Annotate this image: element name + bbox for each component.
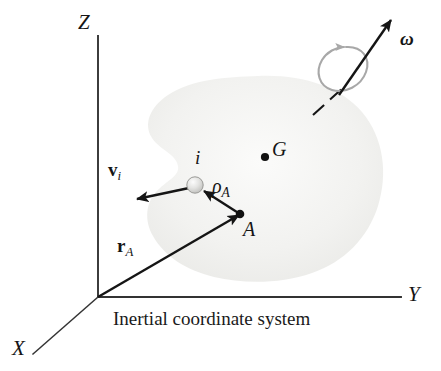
vector-label-v-i: vi bbox=[108, 160, 121, 183]
particle-label-i: i bbox=[195, 148, 200, 167]
point-g-marker bbox=[261, 153, 269, 161]
vector-label-rho-a: ρA bbox=[212, 176, 230, 199]
rigid-body-kinematics-figure: Z Y X G A i vi ρA rA ω Inertial coordina… bbox=[0, 0, 441, 371]
axis-x-line bbox=[33, 297, 98, 354]
vector-label-omega: ω bbox=[400, 29, 414, 48]
vector-symbol-v: v bbox=[108, 159, 118, 180]
particle-i-sphere bbox=[187, 177, 203, 193]
point-label-a: A bbox=[243, 219, 255, 239]
vector-label-r-a: rA bbox=[117, 236, 133, 259]
vector-omega-line bbox=[339, 20, 391, 95]
vector-subscript-a: A bbox=[125, 244, 133, 259]
axis-label-z: Z bbox=[78, 12, 90, 33]
rigid-body-outline bbox=[147, 76, 383, 282]
axis-label-x: X bbox=[12, 338, 25, 359]
vector-subscript-a: A bbox=[222, 185, 230, 200]
vector-subscript-i: i bbox=[118, 168, 122, 183]
point-a-marker bbox=[236, 210, 245, 219]
axis-label-y: Y bbox=[408, 284, 420, 305]
vector-symbol-rho: ρ bbox=[212, 175, 222, 197]
figure-caption: Inertial coordinate system bbox=[113, 309, 310, 328]
rotation-arc bbox=[319, 47, 368, 91]
point-label-g: G bbox=[272, 139, 286, 159]
